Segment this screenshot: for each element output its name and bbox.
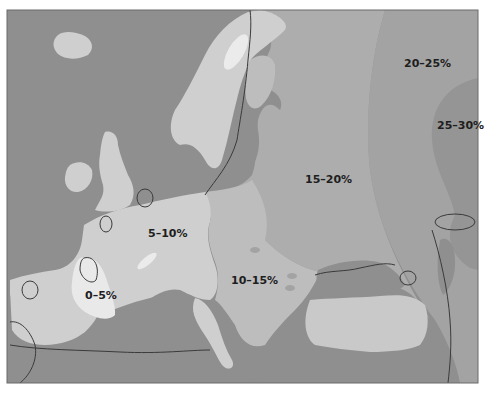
zone-label-20-25: 20–25%	[404, 57, 451, 70]
zone-label-10-15: 10–15%	[231, 274, 278, 287]
lake	[250, 247, 260, 253]
zone-label-5-10: 5–10%	[148, 227, 187, 240]
zone-label-25-30: 25–30%	[437, 119, 484, 132]
lake	[287, 273, 297, 279]
lake	[285, 285, 295, 291]
zone-label-15-20: 15–20%	[305, 173, 352, 186]
europe-zone-map: 0–5% 5–10% 10–15% 15–20% 20–25% 25–30%	[0, 0, 501, 399]
zone-label-0-5: 0–5%	[85, 289, 117, 302]
anatolia	[305, 295, 427, 352]
